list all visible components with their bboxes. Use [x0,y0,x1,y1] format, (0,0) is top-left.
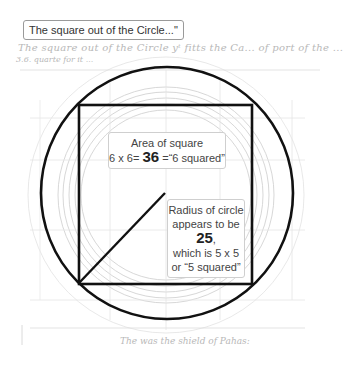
radius-value-row: 25, [168,231,244,246]
radius-of-circle-label: Radius of circle appears to be 25, which… [167,199,245,278]
radius-label-line3: which is 5 x 5 [168,246,244,260]
title-label: The square out of the Circle..." [23,20,184,40]
radius-line [79,193,165,283]
handwriting-line-1: The square out of the Circle yᵗ fitts th… [18,42,343,53]
area-squared: =“6 squared” [162,152,225,164]
radius-value-suffix: , [213,233,216,245]
radius-label-line1: Radius of circle [168,203,244,217]
area-label-line1: Area of square [109,136,225,150]
radius-value: 25 [196,229,213,246]
area-value: 36 [142,148,159,165]
handwriting-footer: The was the shield of Pahas: [120,336,250,346]
radius-label-line4: or “5 squared” [168,260,244,274]
area-of-square-label: Area of square 6 x 6= 36 =“6 squared” [108,132,226,169]
area-label-line2: 6 x 6= 36 =“6 squared” [109,150,225,165]
handwriting-line-2: 3.6. quarte for it ... [16,55,93,64]
area-formula: 6 x 6= [109,152,139,164]
